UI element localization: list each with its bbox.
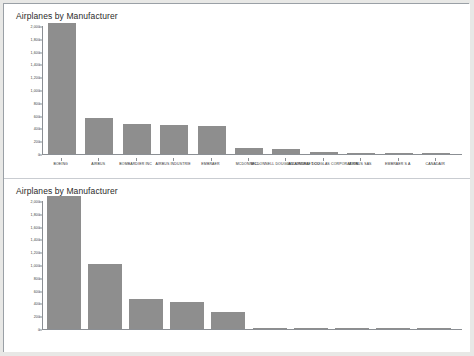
chart-panel-bottom: Airplanes by Manufacturer 02004006008001… <box>4 178 470 352</box>
x-axis-tick-mark <box>98 158 99 161</box>
x-axis-category-label: AIRBUS SAS <box>349 162 372 166</box>
bar[interactable] <box>422 153 450 154</box>
y-axis-tick-mark <box>39 129 42 130</box>
x-axis-category-label: CANADAIR <box>426 162 445 166</box>
x-axis-labels-top: BOEINGAIRBUSBOMBARDIER INCAIRBUS INDUSTR… <box>42 162 454 174</box>
bar[interactable] <box>47 196 81 329</box>
bar[interactable] <box>211 312 245 329</box>
y-axis-tick-mark <box>39 202 42 203</box>
bar[interactable] <box>198 126 226 154</box>
x-axis-category-label: BOMBARDIER INC <box>119 162 152 166</box>
chart-panel-top: Airplanes by Manufacturer 02004006008001… <box>4 4 470 178</box>
x-axis-line-bottom <box>42 329 462 330</box>
bar[interactable] <box>123 124 151 154</box>
bar[interactable] <box>272 149 300 154</box>
x-axis-tick-mark <box>285 158 286 161</box>
bar[interactable] <box>129 299 163 329</box>
bar-series-top <box>43 26 454 154</box>
x-axis-category-label: BOEING <box>53 162 68 166</box>
x-axis-tick-mark <box>435 158 436 161</box>
x-axis-tick-mark <box>323 158 324 161</box>
y-axis-tick-mark <box>39 240 42 241</box>
x-axis-line-top <box>42 154 462 155</box>
x-axis-category-label: EMBRAER <box>201 162 219 166</box>
y-axis-tick-mark <box>39 304 42 305</box>
report-page: Airplanes by Manufacturer 02004006008001… <box>3 3 469 352</box>
y-axis-tick-mark <box>39 266 42 267</box>
y-axis-tick-mark <box>39 142 42 143</box>
y-axis-tick-mark <box>39 253 42 254</box>
x-axis-tick-mark <box>136 158 137 161</box>
bar[interactable] <box>85 118 113 154</box>
x-axis-tick-mark <box>61 158 62 161</box>
x-axis-category-label: EMBRAER S A <box>385 162 410 166</box>
x-axis-category-label: MCDONNELL DOUGLAS CORPORATION <box>287 162 358 166</box>
bar[interactable] <box>417 328 451 329</box>
x-axis-category-label: AIRBUS <box>91 162 105 166</box>
x-axis-tick-mark <box>173 158 174 161</box>
plot-area-bottom: 02004006008001,0001,2001,4001,6001,8002,… <box>42 201 454 330</box>
bar[interactable] <box>170 302 204 329</box>
y-axis-tick-mark <box>39 91 42 92</box>
y-axis-tick-mark <box>39 27 42 28</box>
bar[interactable] <box>88 264 122 329</box>
y-axis-tick-mark <box>39 291 42 292</box>
bar[interactable] <box>376 328 410 329</box>
bar[interactable] <box>335 328 369 329</box>
x-axis-category-label: AIRBUS INDUSTRIE <box>155 162 190 166</box>
x-axis-tick-mark <box>398 158 399 161</box>
y-axis-tick-mark <box>39 155 42 156</box>
y-axis-tick-mark <box>39 227 42 228</box>
x-axis-tick-mark <box>211 158 212 161</box>
bar[interactable] <box>347 153 375 154</box>
chart-title-top: Airplanes by Manufacturer <box>16 11 118 21</box>
y-axis-tick-mark <box>39 52 42 53</box>
y-axis-tick-mark <box>39 214 42 215</box>
bar[interactable] <box>294 328 328 329</box>
y-axis-tick-mark <box>39 103 42 104</box>
y-axis-tick-mark <box>39 39 42 40</box>
bar[interactable] <box>385 153 413 154</box>
bar[interactable] <box>48 23 76 154</box>
plot-area-top: 02004006008001,0001,2001,4001,6001,8002,… <box>42 26 454 155</box>
bar[interactable] <box>253 328 287 329</box>
y-axis-tick-mark <box>39 278 42 279</box>
x-axis-tick-mark <box>248 158 249 161</box>
x-axis-tick-mark <box>360 158 361 161</box>
bar-series-bottom <box>43 201 454 329</box>
y-axis-tick-mark <box>39 116 42 117</box>
chart-title-bottom: Airplanes by Manufacturer <box>16 186 118 196</box>
y-axis-tick-mark <box>39 330 42 331</box>
bar[interactable] <box>160 125 188 154</box>
y-axis-tick-mark <box>39 317 42 318</box>
y-axis-tick-mark <box>39 65 42 66</box>
bar[interactable] <box>235 148 263 154</box>
y-axis-tick-mark <box>39 78 42 79</box>
bar[interactable] <box>310 152 338 154</box>
